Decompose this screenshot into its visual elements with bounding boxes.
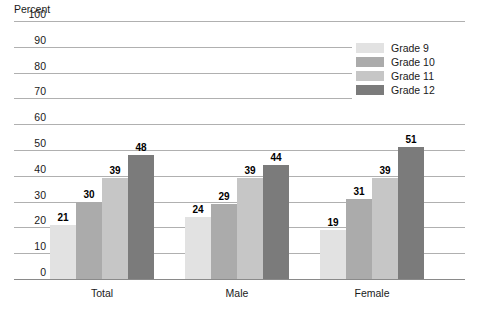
bar[interactable] — [237, 178, 263, 279]
legend-item[interactable]: Grade 10 — [356, 55, 464, 69]
bar[interactable] — [211, 204, 237, 279]
legend-item[interactable]: Grade 9 — [356, 41, 464, 55]
y-tick-label-100: 100 — [14, 8, 46, 20]
legend-swatch-icon — [356, 85, 384, 95]
legend-label: Grade 10 — [391, 56, 435, 68]
bar[interactable] — [102, 178, 128, 279]
legend-item[interactable]: Grade 11 — [356, 69, 464, 83]
bar[interactable] — [128, 155, 154, 279]
bar-value-label: 44 — [256, 152, 296, 163]
legend-item[interactable]: Grade 12 — [356, 83, 464, 97]
bar[interactable] — [346, 199, 372, 279]
legend: Grade 9Grade 10Grade 11Grade 12 — [352, 38, 466, 100]
legend-label: Grade 12 — [391, 84, 435, 96]
bar[interactable] — [50, 225, 76, 279]
legend-swatch-icon — [356, 43, 384, 53]
bar[interactable] — [372, 178, 398, 279]
legend-label: Grade 11 — [391, 70, 434, 82]
bar[interactable] — [320, 230, 346, 279]
bar-value-label: 51 — [391, 134, 431, 145]
bar[interactable] — [76, 202, 102, 279]
bar[interactable] — [263, 165, 289, 279]
bar[interactable] — [398, 147, 424, 279]
legend-swatch-icon — [356, 71, 384, 81]
bar[interactable] — [185, 217, 211, 279]
bar-chart: Percent 1009080706050403020100 213039482… — [0, 0, 479, 313]
bar-group: 21303948 — [50, 21, 154, 279]
legend-swatch-icon — [356, 57, 384, 67]
bar-value-label: 48 — [121, 142, 161, 153]
category-label-female: Female — [290, 287, 454, 299]
legend-label: Grade 9 — [391, 42, 429, 54]
gridline-0 — [14, 279, 465, 280]
bar-group: 24293944 — [185, 21, 289, 279]
